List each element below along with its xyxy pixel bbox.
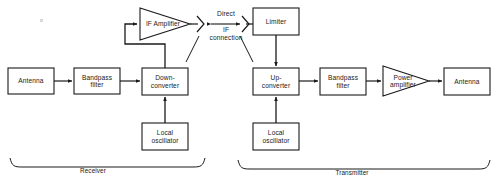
scan-speck [40,19,43,22]
limiter-box [253,8,299,35]
transceiver-block-diagram: Antenna Bandpass filter Down- converter … [0,0,498,187]
local-oscillator-tx-box [253,123,299,150]
power-amplifier-triangle [383,66,429,96]
bandpass-filter-tx-box [320,68,366,95]
diagram-canvas [0,0,498,187]
down-converter-box [142,68,188,95]
up-converter-box [253,68,299,95]
if-amplifier-triangle [140,8,190,40]
local-oscillator-rx-box [142,123,188,150]
link-down-converter-to-if-amplifier [125,24,165,68]
receiver-group-brace [10,158,205,167]
transmitter-group-brace [238,160,490,169]
if-connector-leader-right [240,36,253,62]
antenna-receive-box [8,68,54,94]
bandpass-filter-rx-box [74,68,120,94]
if-connector-left-icon [197,16,204,32]
antenna-transmit-box [444,68,490,95]
if-connector-leader-left [186,36,199,62]
